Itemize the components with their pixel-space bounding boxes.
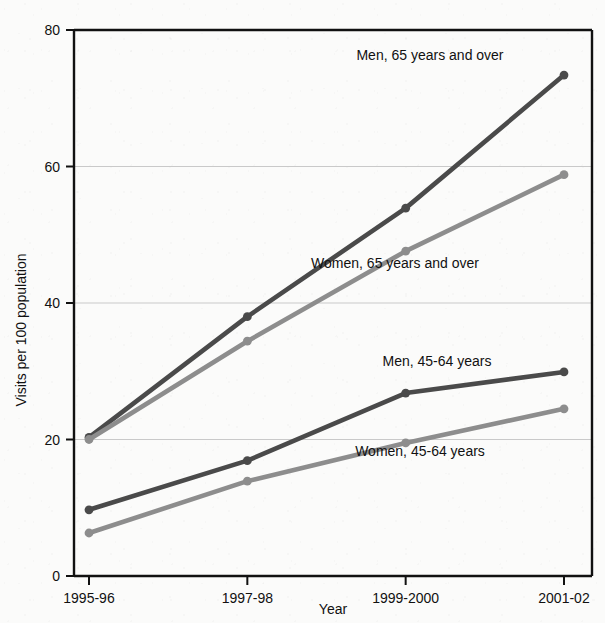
- x-tick-label: 1997-98: [222, 590, 274, 606]
- data-point: [401, 204, 410, 213]
- data-point: [243, 312, 252, 321]
- y-axis-ticks-group: 020406080: [44, 22, 74, 584]
- data-point: [560, 368, 569, 377]
- data-point: [85, 505, 94, 514]
- x-tick-label: 2001-02: [538, 590, 590, 606]
- y-axis-title: Visits per 100 population: [13, 253, 29, 406]
- data-point: [243, 456, 252, 465]
- series-1: [85, 170, 569, 444]
- series-label-0: Men, 65 years and over: [356, 47, 503, 63]
- y-tick-label: 40: [44, 295, 60, 311]
- data-point: [85, 435, 94, 444]
- series-group: [85, 71, 569, 538]
- series-3: [85, 404, 569, 537]
- series-label-2: Men, 45-64 years: [383, 353, 492, 369]
- data-point: [560, 404, 569, 413]
- data-point: [560, 170, 569, 179]
- line-chart: 020406080 1995-961997-981999-20002001-02…: [0, 0, 605, 623]
- series-line: [89, 175, 564, 440]
- series-label-3: Women, 45-64 years: [355, 443, 485, 459]
- data-point: [243, 477, 252, 486]
- y-tick-label: 60: [44, 159, 60, 175]
- data-point: [560, 71, 569, 80]
- data-point: [401, 389, 410, 398]
- data-point: [243, 337, 252, 346]
- y-tick-label: 80: [44, 22, 60, 38]
- x-axis-title: Year: [319, 601, 348, 617]
- series-2: [85, 368, 569, 515]
- x-tick-label: 1995-96: [63, 590, 115, 606]
- series-label-1: Women, 65 years and over: [311, 255, 479, 271]
- y-tick-label: 0: [52, 568, 60, 584]
- x-tick-label: 1999-2000: [372, 590, 439, 606]
- y-tick-label: 20: [44, 432, 60, 448]
- chart-container: 020406080 1995-961997-981999-20002001-02…: [0, 0, 605, 623]
- data-point: [85, 529, 94, 538]
